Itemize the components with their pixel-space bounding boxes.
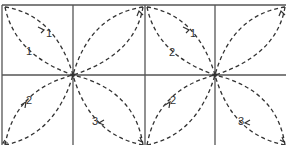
petal-br-lower bbox=[73, 75, 143, 145]
arrow-left-tr-icon bbox=[137, 11, 143, 16]
arrow-left-1-icon bbox=[38, 27, 44, 33]
petal-tr-lower bbox=[215, 7, 285, 75]
arrow-right-1-icon bbox=[183, 27, 189, 33]
right-tile-petals bbox=[147, 7, 285, 145]
petal-bl-lower bbox=[5, 75, 73, 145]
arrow-right-3-icon bbox=[245, 120, 250, 125]
label-left-1a: 1 bbox=[46, 27, 52, 39]
petal-tl-upper bbox=[147, 7, 215, 75]
petal-bl-upper bbox=[5, 75, 73, 145]
petal-br-lower bbox=[215, 75, 285, 145]
label-left-2: 2 bbox=[26, 94, 32, 106]
petal-tl-lower bbox=[147, 7, 215, 75]
petal-br-upper bbox=[73, 75, 143, 145]
label-right-1: 1 bbox=[190, 27, 196, 39]
arrow-right-tr-icon bbox=[279, 11, 285, 16]
petal-tr-upper bbox=[215, 7, 285, 75]
right-center-point bbox=[213, 73, 217, 77]
petal-tl-upper bbox=[5, 7, 73, 75]
left-center-point bbox=[71, 73, 75, 77]
petal-bl-upper bbox=[147, 75, 215, 145]
stitch-diagram: 1 1 2 3 1 2 2 3 bbox=[0, 0, 286, 145]
label-right-2b: 2 bbox=[170, 94, 176, 106]
label-right-2a: 2 bbox=[169, 46, 175, 58]
arrow-left-3-icon bbox=[99, 120, 104, 125]
label-right-3: 3 bbox=[238, 115, 244, 127]
label-left-1b: 1 bbox=[26, 45, 32, 57]
petal-tl-lower bbox=[5, 7, 73, 75]
petal-tr-upper bbox=[73, 7, 143, 75]
label-left-3: 3 bbox=[92, 115, 98, 127]
petal-bl-lower bbox=[147, 75, 215, 145]
petal-tr-lower bbox=[73, 7, 143, 75]
left-tile-petals bbox=[5, 7, 143, 145]
petal-br-upper bbox=[215, 75, 285, 145]
